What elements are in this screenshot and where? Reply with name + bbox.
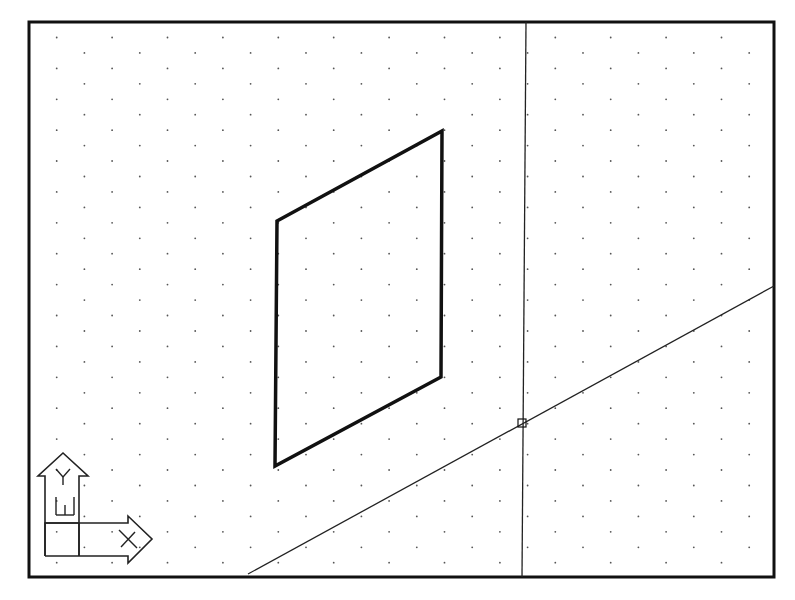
grid-dot (665, 500, 667, 502)
grid-dot (554, 129, 556, 131)
grid-dot (84, 83, 86, 85)
grid-dot (444, 222, 446, 224)
grid-dot (693, 516, 695, 518)
ucs-y-label-icon (56, 469, 70, 485)
grid-dot (693, 361, 695, 363)
grid-dot (84, 546, 86, 548)
grid-dot (250, 237, 252, 239)
grid-dot (554, 346, 556, 348)
grid-dot (444, 469, 446, 471)
grid-dot (333, 346, 335, 348)
isometric-construction-line[interactable] (248, 286, 774, 574)
grid-dot (638, 207, 640, 209)
grid-dot (277, 160, 279, 162)
vertical-construction-line[interactable] (522, 22, 526, 577)
grid-dot (277, 500, 279, 502)
grid-dot (638, 237, 640, 239)
grid-dot (582, 299, 584, 301)
grid-dot (167, 37, 169, 39)
grid-dot (499, 346, 501, 348)
grid-dot (84, 237, 86, 239)
grid-dot (56, 222, 58, 224)
drawing-area-border (29, 22, 774, 577)
grid-dot (748, 392, 750, 394)
grid-dot (748, 207, 750, 209)
grid-dot (748, 516, 750, 518)
grid-dot (527, 299, 529, 301)
grid-dot (638, 299, 640, 301)
grid-dot (416, 176, 418, 178)
grid-dot (610, 98, 612, 100)
grid-dot (305, 268, 307, 270)
grid-dot (416, 299, 418, 301)
grid-dot (333, 376, 335, 378)
cad-viewport[interactable]: Y X W (0, 0, 795, 600)
grid-dot (250, 423, 252, 425)
drawing-canvas[interactable] (0, 0, 795, 600)
grid-dot (222, 284, 224, 286)
ucs-icon (38, 453, 152, 563)
grid-dot (665, 469, 667, 471)
grid-dot (388, 407, 390, 409)
grid-dot (693, 237, 695, 239)
grid-dot (56, 284, 58, 286)
grid-dot (250, 361, 252, 363)
grid-dot (721, 531, 723, 533)
grid-dot (277, 37, 279, 39)
grid-dot (333, 129, 335, 131)
grid-dot (222, 469, 224, 471)
grid-dot (638, 546, 640, 548)
grid-dot (748, 237, 750, 239)
grid-dot (333, 562, 335, 564)
grid-dot (222, 129, 224, 131)
grid-dot (499, 160, 501, 162)
grid-dot (222, 37, 224, 39)
grid-dot (361, 114, 363, 116)
grid-dot (527, 330, 529, 332)
grid-dot (610, 376, 612, 378)
grid-dot (721, 37, 723, 39)
grid-dot (305, 392, 307, 394)
grid-dot (222, 68, 224, 70)
grid-dot (250, 546, 252, 548)
grid-dot (748, 268, 750, 270)
grid-dot (554, 222, 556, 224)
grid-dot (167, 68, 169, 70)
grid-dot (56, 438, 58, 440)
grid-dot (194, 114, 196, 116)
grid-dot (139, 176, 141, 178)
grid-dot (444, 253, 446, 255)
grid-dot (333, 531, 335, 533)
grid-dot (305, 83, 307, 85)
grid-dot (499, 253, 501, 255)
grid-dot (194, 361, 196, 363)
grid-dot (471, 423, 473, 425)
grid-dot (638, 454, 640, 456)
grid-dot (111, 68, 113, 70)
isometric-face-parallelogram[interactable] (275, 131, 442, 466)
grid-dot (194, 423, 196, 425)
grid-dot (56, 407, 58, 409)
grid-dot (610, 562, 612, 564)
grid-dot (167, 346, 169, 348)
grid-dot (527, 361, 529, 363)
grid-dot (499, 191, 501, 193)
grid-dot (416, 237, 418, 239)
grid-dot (111, 376, 113, 378)
grid-dot (748, 423, 750, 425)
grid-dot (444, 562, 446, 564)
grid-dot (277, 68, 279, 70)
grid-dot (582, 52, 584, 54)
grid-dot (499, 129, 501, 131)
grid-dot (748, 485, 750, 487)
grid-dot (444, 346, 446, 348)
grid-dot (167, 407, 169, 409)
grid-dot (333, 37, 335, 39)
grid-dot (721, 284, 723, 286)
grid-dot (333, 469, 335, 471)
grid-dot (665, 284, 667, 286)
grid-dot (693, 392, 695, 394)
grid-dot (56, 37, 58, 39)
grid-dot (305, 176, 307, 178)
grid-dot (388, 253, 390, 255)
